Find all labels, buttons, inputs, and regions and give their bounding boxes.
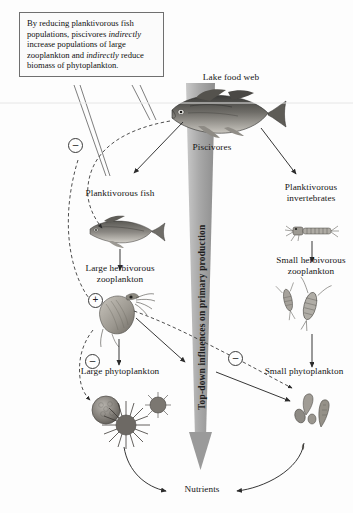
arrow-large-zooplankton-to-small-phyto bbox=[136, 318, 185, 362]
explanatory-callout: By reducing planktivorous fish populatio… bbox=[19, 12, 164, 77]
planktivorous-invertebrate-illustration bbox=[285, 226, 339, 241]
large-phytoplankton-illustration bbox=[92, 392, 171, 449]
label-large-phytoplankton: Large phytoplankton bbox=[55, 366, 185, 377]
figure-title: Lake food web bbox=[176, 72, 286, 83]
label-piscivores: Piscivores bbox=[175, 142, 249, 153]
planktivorous-fish-illustration bbox=[90, 216, 165, 248]
label-large-herbivorous-zooplankton: Large herbivorous zooplankton bbox=[60, 263, 180, 285]
label-small-phytoplankton: Small phytoplankton bbox=[249, 366, 353, 377]
arrow-small-phyto-to-nutrients bbox=[237, 443, 304, 491]
callout-line-3: increase populations of large bbox=[27, 39, 126, 49]
label-small-herbivorous-zooplankton: Small herbivorous zooplankton bbox=[252, 255, 353, 277]
dashed-piscivore-to-fish-negative bbox=[88, 121, 170, 228]
arrow-large-phyto-to-nutrients bbox=[124, 447, 166, 491]
label-planktivorous-fish: Planktivorous fish bbox=[60, 188, 180, 199]
callout-emphasis-1: indirectly bbox=[108, 29, 141, 39]
top-down-arrow-label: Top-down influences on primary productio… bbox=[197, 225, 207, 410]
arrow-piscivore-to-invertebrates bbox=[261, 128, 296, 174]
daphnia-illustration bbox=[100, 293, 155, 347]
sign-plus-large-zooplankton: + bbox=[88, 293, 103, 308]
callout-line-1: By reducing planktivorous fish bbox=[27, 18, 134, 28]
label-nutrients: Nutrients bbox=[168, 484, 236, 495]
callout-line-2a: populations, piscivores bbox=[27, 29, 108, 39]
lake-food-web-figure: By reducing planktivorous fish populatio… bbox=[0, 0, 353, 513]
callout-line-4a: zooplankton and bbox=[27, 50, 86, 60]
small-phytoplankton-illustration bbox=[293, 394, 329, 450]
sign-minus-small-phytoplankton: – bbox=[228, 351, 243, 366]
sign-minus-large-phytoplankton: – bbox=[85, 354, 100, 369]
copepod-illustration bbox=[276, 277, 332, 334]
callout-line-4c: reduce bbox=[119, 50, 144, 60]
callout-emphasis-2: indirectly bbox=[86, 50, 119, 60]
label-planktivorous-invertebrates: Planktivorous invertebrates bbox=[256, 182, 353, 204]
callout-line-5: biomass of phytoplankton. bbox=[27, 60, 118, 70]
sign-minus-piscivore-to-fish: – bbox=[68, 138, 83, 153]
